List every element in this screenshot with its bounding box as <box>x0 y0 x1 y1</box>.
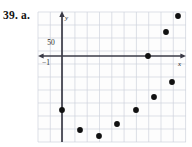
data-point <box>175 13 181 19</box>
figure-number-label: 39. a. <box>3 9 30 21</box>
data-point <box>163 29 169 35</box>
data-point <box>96 133 102 139</box>
figure-container: 39. a. <box>0 0 192 147</box>
data-point <box>145 53 151 59</box>
scatter-points <box>38 12 186 142</box>
data-point <box>114 121 120 127</box>
data-point <box>59 107 65 113</box>
scatter-plot: y x 50 −1 <box>38 12 186 142</box>
data-point <box>77 127 83 133</box>
data-point <box>133 107 139 113</box>
data-point-group <box>59 13 181 139</box>
data-point <box>151 94 157 100</box>
data-point <box>169 79 175 85</box>
